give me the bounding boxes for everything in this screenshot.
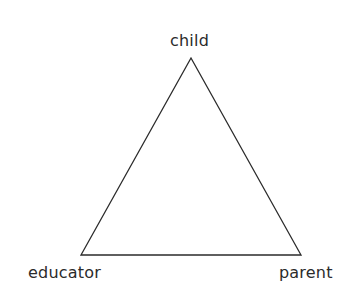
relationship-triangle-diagram: child educator parent <box>0 0 357 301</box>
vertex-label-child: child <box>170 33 209 49</box>
vertex-label-parent: parent <box>279 265 333 281</box>
vertex-label-educator: educator <box>28 265 101 281</box>
triangle-outline <box>81 58 301 255</box>
